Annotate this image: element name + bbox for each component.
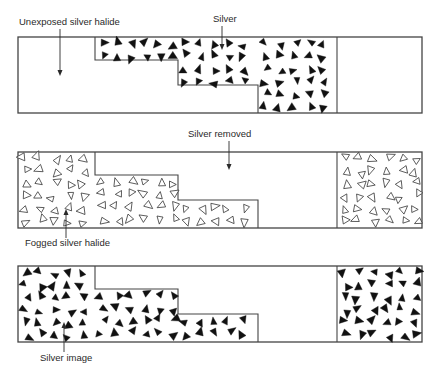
strip-3-second-development <box>18 266 424 342</box>
label-text: Fogged silver halide <box>25 237 110 248</box>
label-text: Silver image <box>40 352 92 363</box>
label-text: Silver removed <box>188 128 251 139</box>
reversal-processing-diagram: Unexposed silver halide Silver Silver re… <box>0 0 438 369</box>
strip-3-outline <box>18 266 422 342</box>
strip-1-development <box>18 36 422 113</box>
label-text: Unexposed silver halide <box>19 16 120 27</box>
strip-2-bleach-fog <box>16 151 423 228</box>
label-text: Silver <box>213 13 237 24</box>
strip-2-outline <box>18 152 422 228</box>
strip-1-outline <box>18 37 422 113</box>
